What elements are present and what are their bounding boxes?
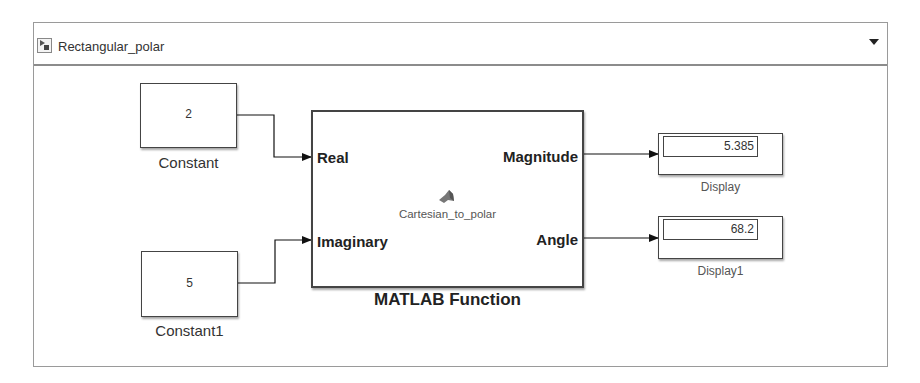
matlab-function-label[interactable]: MATLAB Function bbox=[311, 290, 584, 310]
matlab-logo-icon bbox=[437, 189, 455, 205]
display-block[interactable]: 5.385 bbox=[658, 133, 783, 175]
constant1-block[interactable]: 5 bbox=[141, 251, 238, 317]
constant-block[interactable]: 2 bbox=[140, 83, 237, 148]
input-port-imaginary: Imaginary bbox=[317, 233, 388, 250]
matlab-function-block[interactable]: Real Imaginary Magnitude Angle Cartesian… bbox=[311, 110, 584, 288]
function-name: Cartesian_to_polar bbox=[313, 208, 582, 220]
input-port-real: Real bbox=[317, 149, 349, 166]
constant-value: 2 bbox=[141, 107, 236, 121]
display-label[interactable]: Display bbox=[658, 180, 783, 194]
wire-constant-to-real bbox=[237, 115, 311, 157]
constant-label[interactable]: Constant bbox=[140, 154, 237, 171]
display1-block[interactable]: 68.2 bbox=[658, 216, 783, 259]
display1-label[interactable]: Display1 bbox=[658, 264, 783, 278]
constant1-value: 5 bbox=[142, 276, 237, 290]
output-port-magnitude: Magnitude bbox=[503, 148, 578, 165]
output-port-angle: Angle bbox=[536, 231, 578, 248]
wire-constant1-to-imaginary bbox=[237, 240, 311, 283]
display1-value: 68.2 bbox=[663, 219, 758, 240]
display-value: 5.385 bbox=[663, 136, 758, 157]
constant1-label[interactable]: Constant1 bbox=[136, 322, 243, 339]
